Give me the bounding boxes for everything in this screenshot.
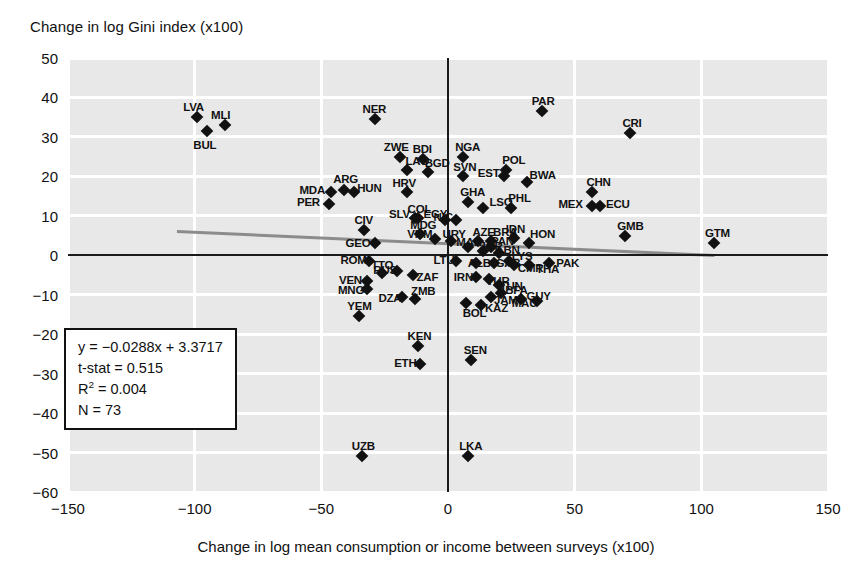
data-point-label: EST	[478, 167, 500, 179]
data-point-label: GHA	[460, 186, 485, 198]
data-point-label: SVN	[453, 161, 476, 173]
regression-n: N = 73	[78, 400, 223, 421]
y-tick-label: −10	[2, 286, 58, 303]
data-point-label: MNG	[338, 284, 364, 296]
regression-tstat: t-stat = 0.515	[78, 358, 223, 379]
x-axis-title: Change in log mean consumption or income…	[0, 538, 852, 555]
data-point-label: YEM	[347, 300, 371, 312]
data-point-label: ZAF	[417, 271, 439, 283]
x-tick-label: 0	[444, 500, 452, 517]
data-point-label: BUL	[193, 139, 216, 151]
x-tick-label: −150	[51, 500, 85, 517]
data-point-label: DZA	[378, 292, 401, 304]
vertical-gridline	[573, 58, 576, 492]
y-tick-label: −40	[2, 405, 58, 422]
data-point-label: MAU	[512, 297, 538, 309]
data-point-label: PHL	[508, 192, 530, 204]
data-point-label: PAK	[556, 257, 579, 269]
data-point-label: BGD	[425, 157, 450, 169]
x-tick-label: 150	[815, 500, 840, 517]
data-point-label: SLV	[389, 208, 410, 220]
data-point-label: KAZ	[485, 302, 508, 314]
data-point-label: LVA	[183, 101, 204, 113]
data-point-label: POL	[502, 154, 525, 166]
y-tick-label: 0	[2, 247, 58, 264]
data-point-label: GEO	[346, 237, 371, 249]
y-tick-label: −20	[2, 326, 58, 343]
scatter-chart-figure: Change in log Gini index (x100) LVABULML…	[0, 0, 852, 569]
data-point-label: BOL	[463, 307, 487, 319]
data-point-label: MDA	[299, 184, 325, 196]
data-point-label: LTU	[434, 254, 455, 266]
y-tick-label: 10	[2, 207, 58, 224]
data-point-label: GTM	[705, 227, 730, 239]
data-point-label: UZB	[352, 440, 375, 452]
data-point-label: VNM	[407, 228, 432, 240]
data-point-label: KEN	[408, 330, 432, 342]
data-point-label: BDI	[413, 143, 432, 155]
data-point-label: HRV	[392, 177, 415, 189]
data-point-label: NER	[363, 103, 387, 115]
data-point-marker	[325, 186, 338, 199]
data-point-label: CRI	[622, 117, 641, 129]
y-tick-label: 50	[2, 50, 58, 67]
x-tick-label: 50	[566, 500, 583, 517]
y-axis-title: Change in log Gini index (x100)	[30, 18, 243, 35]
data-point-label: CHN	[586, 176, 610, 188]
data-point-label: ROM	[340, 254, 366, 266]
x-tick-label: −100	[178, 500, 212, 517]
data-point-label: ARG	[333, 173, 358, 185]
data-point-label: HUN	[357, 182, 381, 194]
vertical-gridline	[700, 58, 703, 492]
data-point-label: NIC	[434, 211, 453, 223]
zero-vertical-axis	[447, 58, 449, 492]
data-point-label: HON	[530, 228, 555, 240]
data-point-label: SEN	[464, 344, 487, 356]
data-point-label: MEX	[558, 198, 582, 210]
regression-equation: y = −0.0288x + 3.3717	[78, 337, 223, 358]
data-point-label: NGA	[455, 141, 480, 153]
data-point-label: ZMB	[411, 285, 435, 297]
data-point-label: LKA	[459, 440, 482, 452]
data-point-label: IRN	[454, 271, 473, 283]
x-tick-label: 100	[689, 500, 714, 517]
data-point-label: MLI	[211, 109, 230, 121]
data-point-marker	[323, 198, 336, 211]
data-point-marker	[477, 202, 490, 215]
data-point-label: ECU	[606, 198, 630, 210]
x-tick-label: −50	[309, 500, 334, 517]
y-tick-label: 30	[2, 128, 58, 145]
data-point-label: CIV	[354, 214, 373, 226]
data-point-label: ZWE	[384, 141, 409, 153]
y-tick-label: 40	[2, 89, 58, 106]
y-tick-label: −50	[2, 444, 58, 461]
data-point-label: MAR	[456, 236, 482, 248]
r2-value: = 0.004	[94, 381, 147, 397]
data-point-label: GMB	[617, 220, 643, 232]
data-point-marker	[594, 200, 607, 213]
data-point-label: BWA	[530, 169, 556, 181]
vertical-gridline	[320, 58, 323, 492]
r2-label: R	[78, 381, 88, 397]
regression-stats-box: y = −0.0288x + 3.3717 t-stat = 0.515 R2 …	[64, 328, 237, 430]
vertical-gridline	[827, 58, 829, 492]
y-tick-label: −60	[2, 484, 58, 501]
data-point-label: PER	[297, 196, 320, 208]
y-tick-label: −30	[2, 365, 58, 382]
data-point-label: PAR	[532, 95, 555, 107]
y-tick-label: 20	[2, 168, 58, 185]
data-point-label: ETH	[394, 357, 416, 369]
regression-r2: R2 = 0.004	[78, 378, 223, 399]
